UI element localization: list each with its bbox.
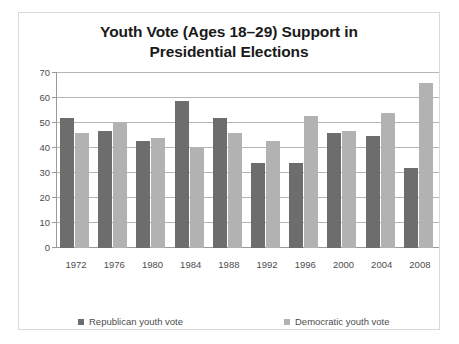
- legend-swatch-republican-icon: [78, 319, 84, 325]
- y-axis-tick-label: 50: [24, 117, 50, 128]
- bar-2008-republican[interactable]: [404, 168, 418, 248]
- y-axis-tick-mark: [52, 197, 56, 198]
- bar-group: [133, 72, 171, 248]
- bar-1972-democratic[interactable]: [75, 133, 89, 248]
- bar-2000-republican[interactable]: [327, 133, 341, 248]
- bar-group: [95, 72, 133, 248]
- legend-label-democratic: Democratic youth vote: [295, 316, 390, 327]
- bar-group: [210, 72, 248, 248]
- bar-2004-republican[interactable]: [366, 136, 380, 249]
- bar-2004-democratic[interactable]: [381, 113, 395, 248]
- bar-group: [363, 72, 401, 248]
- legend-item-republican: Republican youth vote: [78, 316, 183, 327]
- bar-group: [248, 72, 286, 248]
- x-axis-tick-label: 1980: [134, 259, 172, 270]
- x-axis-labels: 1972197619801984198819921996200020042008: [57, 259, 439, 275]
- bar-1996-democratic[interactable]: [304, 116, 318, 249]
- bar-1980-republican[interactable]: [136, 141, 150, 249]
- bar-2000-democratic[interactable]: [342, 131, 356, 249]
- legend-swatch-democratic-icon: [284, 319, 290, 325]
- bar-group: [324, 72, 362, 248]
- y-axis-tick-label: 0: [24, 242, 50, 253]
- chart-frame: Youth Vote (Ages 18–29) Support in Presi…: [18, 12, 440, 330]
- bar-1988-republican[interactable]: [213, 118, 227, 248]
- y-axis-tick-mark: [52, 72, 56, 73]
- bar-group: [57, 72, 95, 248]
- chart-title-line-1: Youth Vote (Ages 18–29) Support in: [49, 22, 409, 42]
- y-axis-tick-label: 30: [24, 167, 50, 178]
- bar-1972-republican[interactable]: [60, 118, 74, 248]
- x-axis-tick-label: 1984: [172, 259, 210, 270]
- y-axis-tick-label: 10: [24, 217, 50, 228]
- bar-1988-democratic[interactable]: [228, 133, 242, 248]
- bar-1980-democratic[interactable]: [151, 138, 165, 248]
- y-axis-tick-mark: [52, 222, 56, 223]
- x-axis-tick-label: 1996: [286, 259, 324, 270]
- x-axis-tick-label: 2000: [325, 259, 363, 270]
- bar-1996-republican[interactable]: [289, 163, 303, 248]
- chart-title-line-2: Presidential Elections: [49, 42, 409, 62]
- bar-1992-democratic[interactable]: [266, 141, 280, 249]
- y-axis-tick-mark: [52, 247, 56, 248]
- y-axis-labels: 010203040506070: [19, 72, 50, 248]
- x-axis-tick-label: 1988: [210, 259, 248, 270]
- y-axis-tick-label: 70: [24, 67, 50, 78]
- bars-layer: [57, 72, 439, 248]
- bar-1976-republican[interactable]: [98, 131, 112, 249]
- y-axis-tick-mark: [52, 147, 56, 148]
- y-axis-tick-mark: [52, 172, 56, 173]
- y-axis-tick-label: 40: [24, 142, 50, 153]
- x-axis-tick-label: 1976: [95, 259, 133, 270]
- bar-1992-republican[interactable]: [251, 163, 265, 248]
- y-axis-tick-label: 20: [24, 192, 50, 203]
- x-axis-tick-label: 1992: [248, 259, 286, 270]
- chart-title: Youth Vote (Ages 18–29) Support in Presi…: [49, 22, 409, 62]
- bar-1984-republican[interactable]: [175, 101, 189, 249]
- bar-group: [401, 72, 439, 248]
- y-axis-tick-label: 60: [24, 92, 50, 103]
- x-axis-tick-label: 2004: [363, 259, 401, 270]
- bar-2008-democratic[interactable]: [419, 83, 433, 248]
- bar-group: [172, 72, 210, 248]
- x-axis-tick-label: 1972: [57, 259, 95, 270]
- bar-1984-democratic[interactable]: [190, 148, 204, 248]
- legend-label-republican: Republican youth vote: [89, 316, 183, 327]
- bar-group: [286, 72, 324, 248]
- legend-item-democratic: Democratic youth vote: [284, 316, 390, 327]
- chart-legend: Republican youth vote Democratic youth v…: [56, 316, 426, 332]
- bar-1976-democratic[interactable]: [113, 123, 127, 248]
- x-axis-tick-label: 2008: [401, 259, 439, 270]
- y-axis-tick-mark: [52, 122, 56, 123]
- y-axis-tick-mark: [52, 97, 56, 98]
